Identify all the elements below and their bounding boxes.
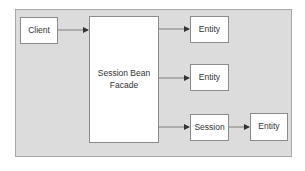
connector-arrows [0, 0, 305, 171]
